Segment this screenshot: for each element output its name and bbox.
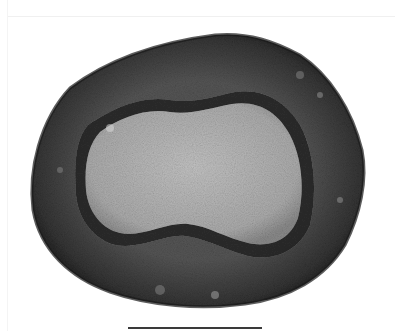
inner-core xyxy=(86,103,302,244)
specimen-cross-section xyxy=(0,0,395,331)
scale-bar xyxy=(128,327,262,329)
